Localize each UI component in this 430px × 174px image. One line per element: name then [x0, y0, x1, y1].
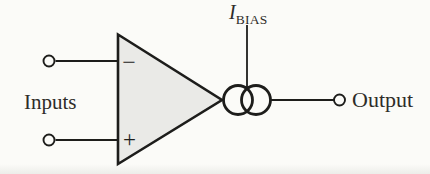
noninverting-input-mark: + — [123, 127, 136, 152]
output-terminal-icon — [334, 95, 345, 106]
inputs-label: Inputs — [24, 92, 77, 113]
schematic-figure: − + Inputs IBIAS Output — [0, 0, 430, 174]
current-source-right-circle-icon — [242, 86, 271, 115]
bias-subscript: BIAS — [236, 12, 268, 27]
output-label: Output — [352, 89, 413, 111]
input-terminal-bottom-icon — [44, 135, 55, 146]
bias-symbol: I — [229, 1, 236, 23]
inverting-input-mark: − — [122, 49, 136, 75]
bias-current-label: IBIAS — [229, 2, 268, 22]
input-terminal-top-icon — [44, 56, 55, 67]
current-source-left-circle-icon — [224, 86, 253, 115]
